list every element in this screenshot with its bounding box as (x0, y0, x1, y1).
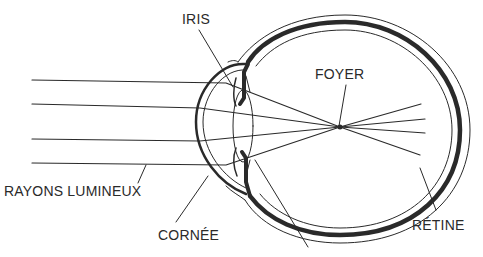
light-rays (32, 80, 425, 165)
label-iris: IRIS (182, 12, 210, 26)
label-retine: RÉTINE (412, 218, 465, 232)
eye-diagram (0, 0, 483, 257)
label-cornee: CORNÉE (158, 228, 219, 242)
label-foyer: FOYER (315, 67, 364, 81)
label-rayons-lumineux: RAYONS LUMINEUX (4, 184, 141, 198)
leader-cornee (176, 176, 208, 222)
leader-rayons (138, 165, 146, 183)
leader-iris (199, 30, 233, 87)
retina-inner (256, 30, 452, 228)
leader-foyer (339, 85, 346, 126)
leader-bottom (255, 160, 308, 247)
